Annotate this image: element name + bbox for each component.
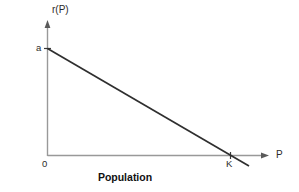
y-axis-variable-label: r(P) xyxy=(52,5,69,15)
x-axis-arrowhead xyxy=(261,153,269,159)
rate-of-change-line xyxy=(48,49,250,167)
x-axis-variable-label: P xyxy=(276,150,283,160)
y-intercept-label-a: a xyxy=(36,43,41,53)
logistic-growth-figure: Net per capita rate of change Population… xyxy=(0,0,299,192)
x-intercept-label-k: K xyxy=(226,159,232,169)
y-axis-arrowhead xyxy=(45,20,51,28)
x-axis-title: Population xyxy=(98,172,152,183)
origin-label: 0 xyxy=(42,159,47,169)
